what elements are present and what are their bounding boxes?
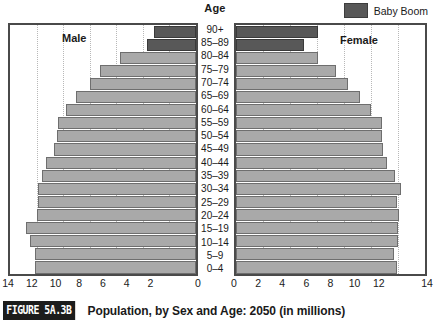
bar-5-9	[236, 248, 394, 260]
bar-row	[236, 182, 425, 195]
axis-tick-label: 14	[421, 277, 433, 289]
bar-10-14	[236, 235, 398, 247]
bar-row	[10, 169, 196, 182]
axis-tick-label: 8	[76, 277, 82, 289]
age-label-80-84: 80–84	[196, 50, 234, 63]
axis-tick-label: 6	[303, 277, 309, 289]
age-label-75-79: 75–79	[196, 63, 234, 76]
bar-row	[236, 143, 425, 156]
bar-0-4	[35, 261, 196, 273]
bar-row	[10, 64, 196, 77]
bar-80-84	[120, 52, 196, 64]
bar-85-89	[147, 39, 196, 51]
bar-row	[10, 209, 196, 222]
bar-70-74	[236, 78, 348, 90]
bar-0-4	[236, 261, 397, 273]
bar-25-29	[38, 196, 196, 208]
axis-tick-label: 4	[279, 277, 285, 289]
bar-50-54	[236, 130, 382, 142]
bar-60-64	[236, 104, 371, 116]
bar-row	[10, 25, 196, 38]
bar-row	[10, 77, 196, 90]
bar-row	[236, 117, 425, 130]
bar-row	[10, 182, 196, 195]
age-label-60-64: 60–64	[196, 103, 234, 116]
legend-label-baby-boom: Baby Boom	[374, 5, 428, 17]
bar-55-59	[236, 117, 382, 129]
bar-row	[236, 248, 425, 261]
axis-tick-label: 14	[2, 277, 14, 289]
male-chart-panel: Male	[8, 23, 198, 276]
bar-row	[236, 51, 425, 64]
age-label-45-49: 45–49	[196, 143, 234, 156]
bar-row	[236, 77, 425, 90]
bar-row	[236, 261, 425, 274]
bar-80-84	[236, 52, 318, 64]
axis-tick-label: 6	[100, 277, 106, 289]
male-panel-label: Male	[62, 32, 86, 44]
bar-row	[10, 130, 196, 143]
bar-5-9	[35, 248, 196, 260]
bar-35-39	[42, 170, 196, 182]
bar-row	[236, 156, 425, 169]
bar-50-54	[57, 130, 197, 142]
age-label-40-44: 40–44	[196, 156, 234, 169]
male-bar-rows	[10, 25, 196, 274]
axis-tick-label: 4	[124, 277, 130, 289]
axis-tick-label: 8	[328, 277, 334, 289]
bar-55-59	[58, 117, 196, 129]
bar-row	[236, 222, 425, 235]
bar-75-79	[236, 65, 336, 77]
bar-70-74	[90, 78, 196, 90]
bar-row	[236, 38, 425, 51]
age-label-85-89: 85–89	[196, 36, 234, 49]
bar-row	[10, 235, 196, 248]
bar-row	[10, 156, 196, 169]
bar-row	[10, 248, 196, 261]
age-label-70-74: 70–74	[196, 76, 234, 89]
age-label-15-19: 15–19	[196, 223, 234, 236]
bar-45-49	[236, 143, 383, 155]
bar-60-64	[66, 104, 196, 116]
bar-15-19	[26, 222, 196, 234]
bar-90plus	[154, 26, 197, 38]
male-x-axis: 14121086420	[8, 277, 198, 292]
chart-legend: Baby Boom	[344, 3, 428, 18]
bar-row	[236, 195, 425, 208]
age-label-20-24: 20–24	[196, 209, 234, 222]
bar-25-29	[236, 196, 397, 208]
bar-row	[10, 222, 196, 235]
chart-header: Age Baby Boom	[0, 0, 435, 23]
bar-35-39	[236, 170, 395, 182]
age-label-65-69: 65–69	[196, 90, 234, 103]
axis-tick-label: 10	[349, 277, 361, 289]
axis-tick-label: 2	[148, 277, 154, 289]
age-axis-title: Age	[196, 2, 234, 14]
male-plot-area	[10, 25, 196, 274]
bar-40-44	[46, 157, 196, 169]
bar-row	[10, 38, 196, 51]
figure-caption: FIGURE 5A.3B Population, by Sex and Age:…	[0, 299, 435, 322]
bar-75-79	[100, 65, 196, 77]
female-panel-label: Female	[340, 34, 378, 46]
bar-45-49	[54, 143, 196, 155]
axis-tick-label: 0	[231, 277, 237, 289]
axis-tick-2: 2	[151, 277, 175, 292]
axis-tick-12: 12	[379, 277, 403, 292]
age-label-5-9: 5–9	[196, 249, 234, 262]
female-bar-rows	[236, 25, 425, 274]
bar-85-89	[236, 39, 304, 51]
bar-row	[236, 169, 425, 182]
figure-caption-text: Population, by Sex and Age: 2050 (in mil…	[88, 304, 346, 318]
bar-row	[236, 235, 425, 248]
bar-row	[236, 209, 425, 222]
female-plot-area	[236, 25, 425, 274]
axis-tick-label: 12	[26, 277, 38, 289]
bar-20-24	[37, 209, 196, 221]
bar-row	[236, 130, 425, 143]
figure-number-tag: FIGURE 5A.3B	[3, 301, 75, 320]
bar-row	[236, 64, 425, 77]
bar-20-24	[236, 209, 399, 221]
bar-65-69	[76, 91, 196, 103]
bar-30-34	[236, 183, 401, 195]
